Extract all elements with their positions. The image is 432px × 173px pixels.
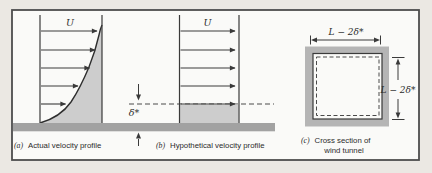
panel-c-caption-line1: Cross section of <box>315 136 372 145</box>
velocity-profile-figure: U U δ* <box>0 0 432 173</box>
panel-b-freestream-velocity-label: U <box>203 17 212 28</box>
panel-c-caption-label: (c) <box>301 136 310 145</box>
tunnel-width-label: L − 2δ* <box>328 27 364 37</box>
tunnel-height-label: L − 2δ* <box>380 85 416 95</box>
displacement-shaded-region <box>180 105 239 124</box>
panel-a-freestream-velocity-label: U <box>66 17 75 28</box>
panel-c-caption-line2: wind tunnel <box>323 146 364 155</box>
figure-canvas: U U δ* <box>0 0 432 173</box>
tunnel-inner-opening <box>313 54 382 120</box>
panel-a-caption-label: (a) <box>14 141 23 150</box>
delta-star-label: δ* <box>129 107 140 118</box>
panel-b-caption-label: (b) <box>156 141 165 150</box>
panel-b-caption: Hypothetical velocity profile <box>170 141 264 150</box>
panel-a-caption: Actual velocity profile <box>28 141 101 150</box>
ground-surface-bar <box>13 123 275 131</box>
